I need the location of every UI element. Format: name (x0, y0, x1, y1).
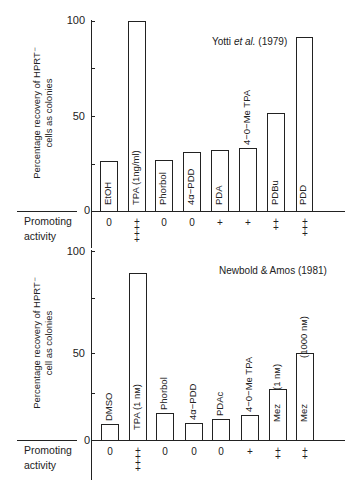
top-tick-label-50: 50 (57, 111, 85, 122)
bottom-promoting-label: Promoting activity (24, 443, 72, 473)
bottom-bar-dmso (101, 424, 119, 441)
top-label-4a-pdd: 4α−PDD (186, 169, 196, 205)
bottom-activity-mez-1000nm: + + (296, 448, 314, 460)
top-label-pdbu: PDBu (270, 180, 280, 205)
top-activity-tpa: + + + + (128, 219, 146, 243)
top-activity-4a-pdd: 0 (183, 220, 201, 226)
top-y-axis (91, 20, 92, 248)
bottom-y-axis-label: Percentage recovery of HPRT⁻ cell as col… (31, 258, 57, 428)
top-tick-75 (91, 68, 95, 69)
bottom-bar-pdac (212, 419, 230, 441)
top-bar-4-o-me-tpa (239, 148, 257, 212)
bottom-activity-dmso: 0 (101, 449, 119, 455)
bottom-bar-mez-1000nm (296, 353, 314, 441)
top-tick-100 (91, 21, 95, 22)
top-label-tpa: TPA (1ng/ml) (131, 150, 141, 205)
bottom-tick-label-50: 50 (57, 348, 85, 359)
bottom-sublabel-mez-1nm: (1 nм) (272, 364, 282, 390)
top-activity-etoh: 0 (100, 220, 118, 226)
top-label-etoh: EtOH (103, 182, 113, 205)
bottom-activity-tpa: + + + + (129, 448, 147, 472)
bottom-activity-mez-1nm: + + (269, 448, 287, 460)
bottom-bar-4a-pdd (185, 423, 203, 441)
bottom-label-mez-1nm: Mez (272, 404, 282, 422)
bottom-sublabel-mez-1000nm: (1000 nм) (299, 316, 309, 358)
bottom-tick-label-100: 100 (57, 246, 85, 257)
top-activity-4-o-me-tpa: + (239, 220, 257, 226)
top-label-phorbol: Phorbol (158, 172, 168, 205)
bottom-label-dmso: DMSO (104, 393, 114, 422)
top-tick-label-100: 100 (57, 15, 85, 26)
top-y-axis-label: Percentage recovery of HPRT⁻ cells as co… (31, 28, 57, 198)
bottom-label-tpa: TPA (1 nм) (132, 384, 142, 430)
bottom-label-phorbol: Phorbol (159, 377, 169, 410)
top-label-4-o-me-tpa: 4−0−Me TPA (242, 90, 252, 145)
bottom-tick-100 (91, 251, 95, 252)
bottom-activity-pdac: 0 (212, 449, 230, 455)
bottom-label-mez-1000nm: Mez (299, 404, 309, 422)
bottom-baseline-left (17, 440, 77, 441)
top-activity-pda: + (211, 220, 229, 226)
bottom-label-4-o-me-tpa: 4−0−Me TPA (244, 357, 254, 412)
top-baseline-left (17, 211, 77, 212)
bottom-activity-phorbol: 0 (156, 449, 174, 455)
bottom-label-pdac: PDAc (215, 392, 225, 416)
top-tick-50 (91, 116, 95, 117)
bottom-activity-4-o-me-tpa: + (241, 449, 259, 455)
bottom-activity-4a-pdd: 0 (185, 449, 203, 455)
top-citation: Yotti et al. (1979) (212, 36, 287, 47)
bottom-bar-4-o-me-tpa (241, 415, 259, 441)
top-activity-pdbu: + + (267, 219, 285, 231)
bottom-label-4a-pdd: 4α−PDD (188, 384, 198, 420)
bottom-bar-phorbol (156, 413, 174, 441)
top-tick-25 (91, 164, 95, 165)
top-label-pda: PDA (214, 185, 224, 205)
bottom-y-axis (91, 250, 92, 480)
top-activity-phorbol: 0 (155, 220, 173, 226)
top-activity-pdd: + + + (296, 219, 314, 237)
bottom-tick-25 (91, 393, 95, 394)
top-label-pdd: PDD (298, 185, 308, 205)
top-promoting-label: Promoting activity (24, 214, 72, 244)
bottom-tick-50 (91, 353, 95, 354)
bottom-citation: Newbold & Amos (1981) (219, 265, 327, 276)
bottom-tick-75 (91, 298, 95, 299)
